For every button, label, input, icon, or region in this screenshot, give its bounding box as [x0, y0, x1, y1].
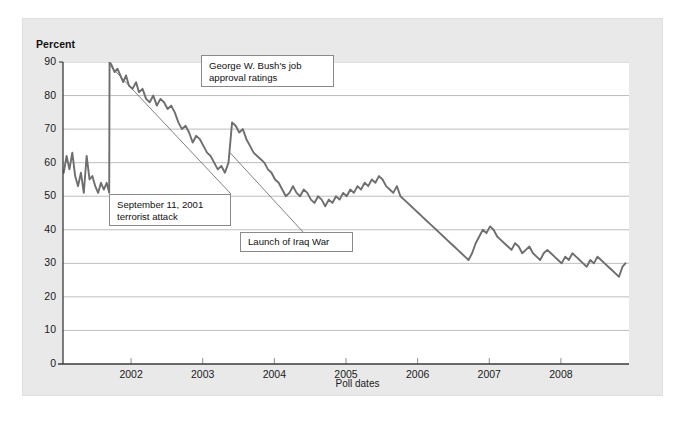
y-tick-label-0: 0	[30, 357, 56, 369]
y-tick-label-10: 10	[30, 323, 56, 335]
y-tick-label-50: 50	[30, 189, 56, 201]
y-tick-label-40: 40	[30, 223, 56, 235]
y-tick-label-20: 20	[30, 290, 56, 302]
y-tick-label-90: 90	[30, 55, 56, 67]
y-axis-title: Percent	[36, 38, 75, 50]
x-axis-title: Poll dates	[0, 378, 687, 389]
callout-bush-approval: George W. Bush's job approval ratings	[201, 55, 334, 87]
y-tick-label-30: 30	[30, 256, 56, 268]
figure-root: Percent 0 10 20 30 40 50 60 70 80 90 200…	[0, 0, 687, 433]
figure-caption-clip: FIGURE :: 5	[0, 410, 687, 433]
callout-september-11: September 11, 2001 terrorist attack	[109, 194, 231, 226]
x-tick-marks	[131, 358, 561, 364]
y-tick-label-70: 70	[30, 122, 56, 134]
callout-iraq-war: Launch of Iraq War	[240, 232, 353, 252]
x-axis-title-text: Poll dates	[336, 378, 380, 389]
y-tick-label-60: 60	[30, 156, 56, 168]
y-tick-label-80: 80	[30, 89, 56, 101]
